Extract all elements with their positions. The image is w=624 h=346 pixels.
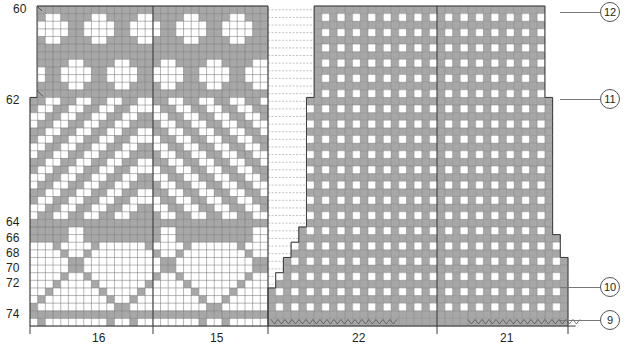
- row-label: 68: [6, 247, 19, 259]
- marker-leader-line: [560, 99, 601, 100]
- marker-leader-line: [560, 12, 601, 13]
- row-label: 62: [6, 94, 19, 106]
- marker-leader-line: [560, 320, 601, 321]
- section-label: 22: [352, 332, 365, 344]
- step-marker: 12: [600, 2, 620, 22]
- step-marker: 9: [600, 310, 620, 330]
- knitting-chart: 6062646668707274161522211211109: [0, 0, 624, 346]
- section-label: 21: [500, 332, 513, 344]
- marker-leader-line: [560, 287, 601, 288]
- step-marker: 11: [600, 89, 620, 109]
- row-label: 74: [6, 308, 19, 320]
- row-label: 66: [6, 232, 19, 244]
- row-label: 70: [6, 262, 19, 274]
- step-marker: 10: [600, 277, 620, 297]
- section-label: 16: [92, 332, 105, 344]
- chart-grid: [0, 0, 624, 346]
- section-label: 15: [210, 332, 223, 344]
- row-label: 60: [13, 3, 26, 15]
- row-label: 72: [6, 277, 19, 289]
- row-label: 64: [6, 216, 19, 228]
